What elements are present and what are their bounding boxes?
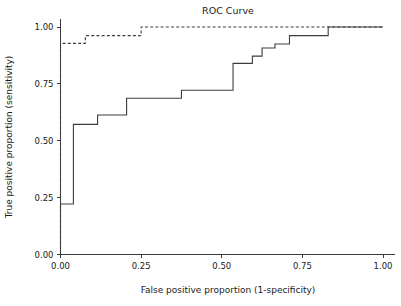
- roc-curve-solid: [61, 27, 384, 255]
- x-axis-ticks: 0.000.250.500.751.00: [51, 255, 392, 271]
- y-tick-label: 0.00: [35, 250, 54, 260]
- roc-chart-figure: ROC Curve 0.000.250.500.751.00 0.000.250…: [0, 0, 401, 306]
- y-axis-label: True positive proportion (sensitivity): [4, 56, 14, 220]
- x-tick-label: 0.50: [212, 261, 231, 271]
- roc-curves-group: [61, 27, 384, 255]
- x-axis-label: False positive proportion (1-specificity…: [141, 285, 316, 295]
- x-tick-label: 0.25: [132, 261, 151, 271]
- x-tick-label: 1.00: [374, 261, 393, 271]
- plot-axes-frame: [61, 19, 396, 255]
- x-tick-label: 0.00: [51, 261, 70, 271]
- y-tick-label: 1.00: [35, 22, 54, 32]
- y-tick-label: 0.75: [35, 79, 54, 89]
- roc-curve-dashed: [61, 27, 384, 255]
- y-tick-label: 0.25: [35, 193, 54, 203]
- chart-canvas: ROC Curve 0.000.250.500.751.00 0.000.250…: [0, 0, 401, 306]
- chart-title: ROC Curve: [202, 5, 254, 16]
- x-tick-label: 0.75: [293, 261, 312, 271]
- y-tick-label: 0.50: [35, 136, 54, 146]
- y-axis-ticks: 0.000.250.500.751.00: [35, 22, 61, 260]
